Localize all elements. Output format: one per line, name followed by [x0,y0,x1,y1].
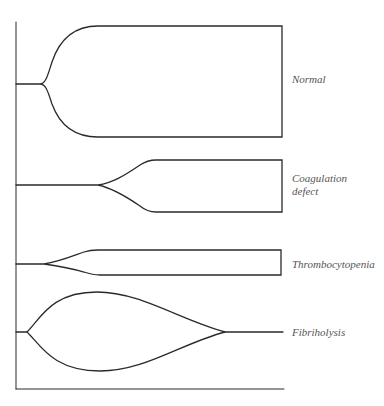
label-fibrinolysis: Fibriholysis [292,326,345,339]
label-coagulation-line1: Coagulation [292,172,347,185]
label-coagulation-defect: Coagulation defect [292,172,347,198]
thromboelastogram-diagram [0,0,384,406]
trace-normal [16,26,282,137]
trace-coagulation-defect [16,160,282,212]
trace-fibrinolysis [16,292,283,371]
label-normal: Normal [292,73,326,86]
label-coagulation-line2: defect [292,185,347,198]
label-thrombocytopenia: Thrombocytopenia [292,258,375,271]
trace-thrombocytopenia [16,250,281,275]
